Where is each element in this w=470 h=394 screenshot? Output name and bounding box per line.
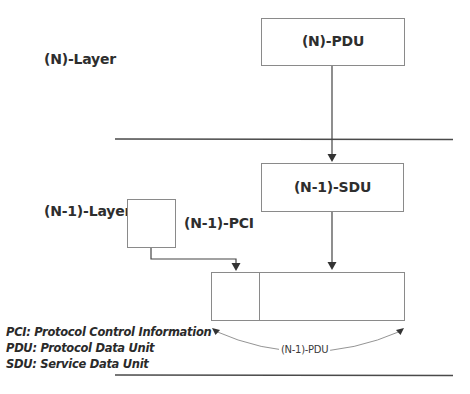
- n-1-sdu-box: (N-1)-SDU: [261, 163, 404, 212]
- pci-sdu-divider: [259, 273, 260, 320]
- n-1-sdu-label: (N-1)-SDU: [262, 179, 403, 195]
- n-layer-label: (N)-Layer: [44, 51, 116, 67]
- bottom-boundary-line: [115, 375, 453, 376]
- n-1-pci-label: (N-1)-PCI: [184, 215, 254, 231]
- n-pdu-box: (N)-PDU: [261, 18, 405, 66]
- n-1-layer-label: (N-1)-Layer: [44, 203, 131, 219]
- arrow-sdu-to-pdu: [328, 212, 337, 270]
- n-1-pdu-span-label: (N-1)-PDU: [279, 344, 330, 355]
- n-1-pdu-box: [211, 272, 405, 321]
- legend-item-sdu: SDU: Service Data Unit: [6, 357, 149, 371]
- n-1-pci-box: [127, 199, 176, 248]
- layer-boundary-line: [115, 139, 453, 140]
- arrow-pdu-to-sdu: [328, 66, 337, 162]
- n-pdu-label: (N)-PDU: [262, 33, 404, 49]
- legend-item-pdu: PDU: Protocol Data Unit: [6, 341, 154, 355]
- protocol-layer-diagram: (N)-Layer (N)-PDU (N-1)-SDU (N-1)-Layer …: [0, 0, 470, 394]
- arrow-pci-to-pdu: [151, 247, 241, 271]
- legend-item-pci: PCI: Protocol Control Information: [6, 325, 211, 339]
